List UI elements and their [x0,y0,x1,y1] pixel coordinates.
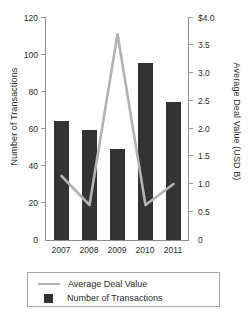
average-deal-value-line [0,0,252,262]
line-swatch-icon [38,283,60,285]
chart-legend: Average Deal Value Number of Transaction… [27,272,220,307]
legend-label-number-of-transactions: Number of Transactions [67,294,163,303]
legend-item-number-of-transactions: Number of Transactions [38,291,163,305]
square-swatch-icon [44,294,53,303]
plot-area: Number of Transactions Average Deal Valu… [0,0,252,262]
legend-label-average-deal-value: Average Deal Value [68,280,147,289]
chart-figure: Number of Transactions Average Deal Valu… [0,0,252,329]
x-tick-label-2011: 2011 [156,246,190,255]
legend-item-average-deal-value: Average Deal Value [38,277,147,291]
